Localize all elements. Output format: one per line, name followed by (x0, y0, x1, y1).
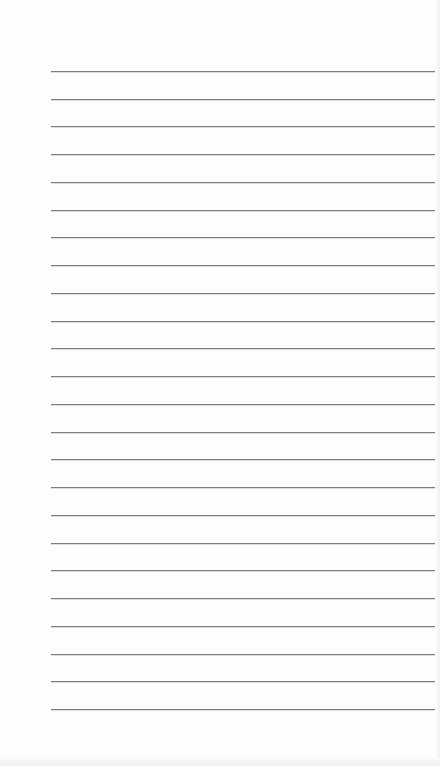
ruled-line (51, 515, 435, 516)
ruled-line (51, 626, 435, 627)
ruled-line (51, 126, 435, 127)
ruled-line (51, 487, 435, 488)
ruled-line (51, 210, 435, 211)
ruled-line (51, 376, 435, 377)
ruled-line (51, 321, 435, 322)
page-right-edge (436, 0, 440, 766)
ruled-line (51, 348, 435, 349)
ruled-line (51, 432, 435, 433)
ruled-line (51, 71, 435, 72)
ruled-line (51, 681, 435, 682)
ruled-line (51, 237, 435, 238)
ruled-line (51, 654, 435, 655)
lined-paper-page (0, 0, 440, 766)
ruled-line (51, 598, 435, 599)
ruled-line (51, 154, 435, 155)
ruled-line (51, 543, 435, 544)
ruled-line (51, 265, 435, 266)
ruled-line (51, 293, 435, 294)
ruled-line (51, 182, 435, 183)
ruled-line (51, 459, 435, 460)
ruled-line (51, 570, 435, 571)
ruled-line (51, 404, 435, 405)
page-bottom-edge (0, 758, 440, 766)
ruled-line (51, 709, 435, 710)
ruled-line (51, 99, 435, 100)
